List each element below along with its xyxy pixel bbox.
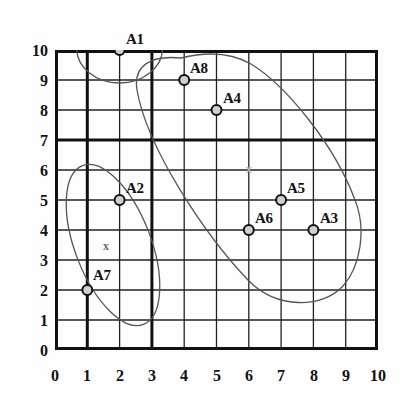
centroid-markers: x x	[103, 162, 252, 253]
x-tick-0: 0	[40, 368, 70, 384]
y-tick-4: 4	[14, 223, 48, 239]
data-point-a5[interactable]	[276, 195, 286, 205]
centroid-left-x-icon: x	[103, 239, 109, 253]
data-point-label-a2: A2	[126, 181, 144, 196]
data-point-a2[interactable]	[115, 195, 125, 205]
x-tick-7: 7	[266, 368, 296, 384]
y-tick-10: 10	[14, 43, 48, 59]
y-tick-9: 9	[14, 73, 48, 89]
data-point-a1[interactable]	[115, 50, 125, 55]
data-point-a8[interactable]	[179, 75, 189, 85]
scatter-plot-figure: 10 9 8 7 6 5 4 3 2 1 0 0 1 2 3 4 5 6 7 8…	[0, 0, 407, 404]
plot-svg: x x	[55, 50, 378, 350]
data-point-label-a3: A3	[320, 211, 338, 226]
x-tick-2: 2	[105, 368, 135, 384]
x-tick-4: 4	[169, 368, 199, 384]
data-point-a7[interactable]	[82, 285, 92, 295]
y-tick-6: 6	[14, 163, 48, 179]
data-point-a4[interactable]	[212, 105, 222, 115]
cluster-outlines	[55, 50, 361, 338]
data-point-label-a7: A7	[93, 268, 111, 283]
data-point-label-a1: A1	[126, 32, 144, 47]
x-tick-9: 9	[331, 368, 361, 384]
data-point-label-a5: A5	[287, 181, 305, 196]
x-tick-6: 6	[234, 368, 264, 384]
cluster-outline-left	[55, 152, 179, 338]
plot-area: x x A1 A8 A4 A2 A5 A6 A3 A7	[55, 50, 378, 350]
data-point-label-a6: A6	[255, 211, 273, 226]
x-tick-1: 1	[72, 368, 102, 384]
x-tick-3: 3	[137, 368, 167, 384]
data-point-label-a8: A8	[190, 61, 208, 76]
data-point-a6[interactable]	[244, 225, 254, 235]
y-tick-0: 0	[14, 343, 48, 359]
y-tick-5: 5	[14, 193, 48, 209]
y-tick-2: 2	[14, 283, 48, 299]
y-tick-3: 3	[14, 253, 48, 269]
y-tick-8: 8	[14, 103, 48, 119]
x-tick-10: 10	[363, 368, 393, 384]
y-tick-1: 1	[14, 313, 48, 329]
data-point-label-a4: A4	[223, 91, 241, 106]
y-tick-7: 7	[14, 133, 48, 149]
x-tick-5: 5	[202, 368, 232, 384]
data-point-a3[interactable]	[308, 225, 318, 235]
data-points	[82, 50, 318, 295]
x-tick-8: 8	[299, 368, 329, 384]
centroid-right-x-icon: x	[246, 162, 252, 176]
